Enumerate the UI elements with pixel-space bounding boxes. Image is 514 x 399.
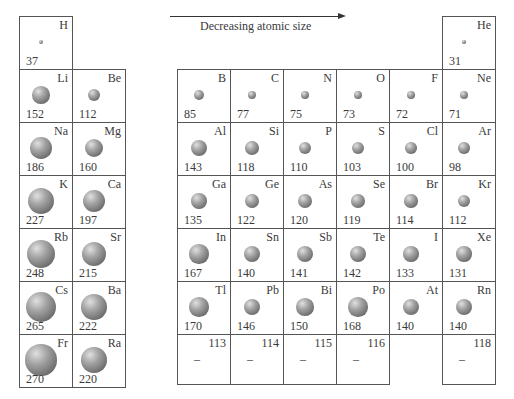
- atomic-radius-value: 152: [26, 107, 44, 121]
- element-symbol: Xe: [477, 230, 491, 244]
- element-symbol: In: [216, 230, 226, 244]
- atomic-radius-value: 135: [184, 213, 202, 227]
- atom-sphere-icon: [245, 141, 259, 155]
- unknown-radius: –: [353, 353, 359, 365]
- element-symbol: Al: [214, 124, 226, 138]
- element-cell-cs: Cs265: [19, 281, 73, 335]
- atom-sphere-icon: [350, 246, 366, 262]
- element-symbol: B: [218, 71, 226, 85]
- atomic-radius-value: 133: [396, 266, 414, 280]
- atom-sphere-icon: [354, 91, 362, 99]
- element-symbol: Mg: [104, 124, 121, 138]
- element-cell-at: At140: [389, 281, 443, 335]
- element-symbol: Ne: [477, 71, 491, 85]
- atom-sphere-icon: [351, 194, 365, 208]
- atomic-radius-value: 100: [396, 160, 414, 174]
- element-cell-115: 115–: [283, 334, 337, 385]
- element-symbol: Pb: [266, 283, 279, 297]
- element-cell-se: Se119: [336, 175, 390, 229]
- element-symbol: Si: [269, 124, 279, 138]
- element-symbol: Ga: [212, 177, 226, 191]
- atomic-radius-value: 215: [79, 266, 97, 280]
- element-cell-118: 118–: [442, 334, 496, 385]
- atomic-radius-value: 31: [449, 54, 461, 68]
- element-cell-h: H37: [19, 16, 73, 70]
- element-cell-ge: Ge122: [230, 175, 284, 229]
- element-cell-be: Be112: [72, 69, 126, 123]
- atomic-radius-value: 170: [184, 319, 202, 333]
- atomic-number: 116: [367, 336, 385, 350]
- element-cell-ga: Ga135: [177, 175, 231, 229]
- element-cell-s: S103: [336, 122, 390, 176]
- atomic-radius-value: 72: [396, 107, 408, 121]
- atom-sphere-icon: [244, 299, 261, 316]
- atomic-radius-value: 270: [26, 372, 44, 386]
- unknown-radius: –: [194, 353, 200, 365]
- element-cell-li: Li152: [19, 69, 73, 123]
- atom-sphere-icon: [296, 298, 313, 315]
- element-symbol: Po: [372, 283, 385, 297]
- element-symbol: Bi: [321, 283, 332, 297]
- element-cell-rn: Rn140: [442, 281, 496, 335]
- element-cell-fr: Fr270: [19, 334, 73, 388]
- element-cell-113: 113–: [177, 334, 231, 385]
- atomic-radius-value: 142: [343, 266, 361, 280]
- atom-sphere-icon: [458, 195, 471, 208]
- element-symbol: P: [325, 124, 332, 138]
- atomic-number: 115: [314, 336, 332, 350]
- atomic-number: 113: [208, 336, 226, 350]
- element-symbol: K: [59, 177, 68, 191]
- atomic-radius-value: 160: [79, 160, 97, 174]
- element-symbol: Be: [108, 71, 121, 85]
- element-cell-bi: Bi150: [283, 281, 337, 335]
- element-symbol: Ca: [108, 177, 121, 191]
- atom-sphere-icon: [407, 91, 415, 99]
- atomic-radius-value: 143: [184, 160, 202, 174]
- atom-sphere-icon: [299, 142, 312, 155]
- atom-sphere-icon: [405, 142, 417, 154]
- atom-sphere-icon: [82, 242, 107, 267]
- atomic-radius-value: 220: [79, 372, 97, 386]
- atomic-radius-value: 186: [26, 160, 44, 174]
- atomic-radius-value: 85: [184, 107, 196, 121]
- atom-sphere-icon: [26, 292, 56, 322]
- element-cell-xe: Xe131: [442, 228, 496, 282]
- element-cell-b: B85: [177, 69, 231, 123]
- element-symbol: Sr: [110, 230, 121, 244]
- element-symbol: Ge: [265, 177, 279, 191]
- atomic-radius-value: 140: [237, 266, 255, 280]
- atom-sphere-icon: [85, 139, 103, 157]
- element-symbol: Ra: [108, 336, 121, 350]
- element-symbol: S: [378, 124, 385, 138]
- atomic-radius-value: 122: [237, 213, 255, 227]
- atom-sphere-icon: [462, 40, 466, 44]
- atomic-radius-value: 77: [237, 107, 249, 121]
- element-symbol: Kr: [478, 177, 491, 191]
- atom-sphere-icon: [25, 344, 56, 375]
- element-symbol: Rb: [54, 230, 68, 244]
- atomic-radius-value: 37: [26, 54, 38, 68]
- element-symbol: Se: [373, 177, 385, 191]
- atom-sphere-icon: [191, 193, 207, 209]
- atomic-radius-value: 73: [343, 107, 355, 121]
- atom-sphere-icon: [403, 299, 419, 315]
- element-cell-ne: Ne71: [442, 69, 496, 123]
- atom-sphere-icon: [245, 194, 259, 208]
- atomic-radius-value: 222: [79, 319, 97, 333]
- atom-sphere-icon: [352, 142, 364, 154]
- unknown-radius: –: [300, 353, 306, 365]
- atomic-radius-value: 120: [290, 213, 308, 227]
- atom-sphere-icon: [83, 190, 106, 213]
- element-symbol: Fr: [57, 336, 68, 350]
- element-cell-kr: Kr112: [442, 175, 496, 229]
- element-cell-116: 116–: [336, 334, 390, 385]
- atomic-radius-value: 98: [449, 160, 461, 174]
- element-symbol: N: [323, 71, 332, 85]
- element-symbol: Ar: [478, 124, 491, 138]
- element-cell-na: Na186: [19, 122, 73, 176]
- atom-sphere-icon: [244, 246, 260, 262]
- atom-sphere-icon: [32, 86, 49, 103]
- element-cell-ba: Ba222: [72, 281, 126, 335]
- element-symbol: Sn: [266, 230, 279, 244]
- unknown-radius: –: [459, 353, 465, 365]
